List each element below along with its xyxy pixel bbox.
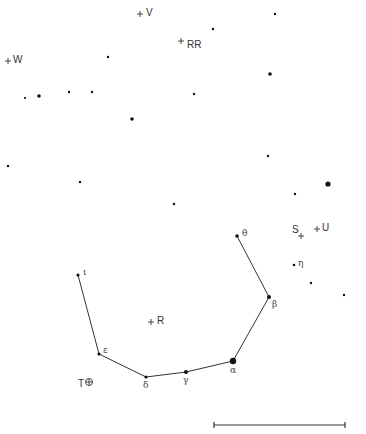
field-stars <box>7 13 345 296</box>
variable-label-S: S <box>292 225 299 235</box>
star-dot <box>267 155 269 157</box>
star-dot <box>294 193 296 195</box>
variable-label-RR: RR <box>187 40 201 50</box>
star-dot <box>310 282 312 284</box>
variable-label-U: U <box>322 223 329 233</box>
variable-label-T: T <box>78 379 84 389</box>
star-label-iota: ι <box>83 268 87 277</box>
star-alpha <box>230 358 236 364</box>
star-delta <box>144 375 147 378</box>
star-label-beta: β <box>272 300 277 309</box>
star-chart <box>0 0 366 434</box>
star-iota <box>76 273 79 276</box>
star-epsilon <box>97 352 100 355</box>
star-dot <box>107 56 109 58</box>
star-theta <box>235 234 239 238</box>
star-dot <box>212 28 214 30</box>
star-eta <box>293 264 296 267</box>
star-dot <box>193 93 195 95</box>
star-beta <box>267 295 271 299</box>
star-dot <box>7 165 9 167</box>
star-label-delta: δ <box>143 381 148 390</box>
star-dot <box>130 117 134 121</box>
star-dot <box>274 13 276 15</box>
star-gamma <box>184 370 188 374</box>
star-dot <box>268 72 272 76</box>
star-label-gamma: γ <box>183 376 188 385</box>
variable-label-W: W <box>13 55 22 65</box>
star-dot <box>343 294 345 296</box>
star-dot <box>24 97 26 99</box>
variable-label-R: R <box>157 316 164 326</box>
star-label-alpha: α <box>230 366 236 375</box>
scale-bar <box>214 422 345 428</box>
star-dot <box>325 181 330 186</box>
constellation-lines <box>78 236 269 377</box>
star-label-epsilon: ε <box>103 346 108 355</box>
star-dot <box>37 94 41 98</box>
star-dot <box>79 181 81 183</box>
star-label-eta: η <box>298 259 303 268</box>
variable-label-V: V <box>146 8 153 18</box>
star-dot <box>173 203 175 205</box>
constellation-stars <box>76 234 295 378</box>
constellation-line <box>78 236 269 377</box>
star-dot <box>68 91 70 93</box>
variable-star-markers <box>5 11 320 386</box>
star-label-theta: θ <box>242 229 247 238</box>
star-dot <box>91 91 93 93</box>
